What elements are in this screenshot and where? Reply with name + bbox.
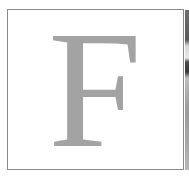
- adjacent-image-edge: [185, 10, 189, 170]
- letter-glyph: F: [40, 14, 150, 164]
